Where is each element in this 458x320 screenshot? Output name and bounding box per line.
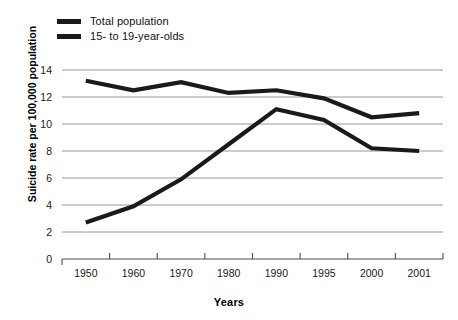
y-tick-label: 8 <box>46 145 52 157</box>
x-tick-label: 1960 <box>122 267 146 279</box>
y-tick-labels-group: 02468101214 <box>40 64 52 265</box>
x-tick-label: 1950 <box>74 267 98 279</box>
x-tick-label: 1990 <box>265 267 289 279</box>
y-tick-label: 0 <box>46 253 52 265</box>
x-axis-group <box>62 253 443 265</box>
x-tick-labels-group: 19501960197019801990199520002001 <box>74 267 431 279</box>
x-tick-label: 2001 <box>408 267 432 279</box>
y-tick-label: 12 <box>40 91 52 103</box>
series-line-teens <box>86 109 419 222</box>
x-tick-label: 1970 <box>169 267 193 279</box>
series-line-total-population <box>86 81 419 117</box>
series-lines-group <box>86 81 419 223</box>
x-tick-label: 1995 <box>312 267 336 279</box>
chart-figure: Total population 15- to 19-year-olds Sui… <box>0 0 458 320</box>
y-tick-label: 14 <box>40 64 52 76</box>
y-tick-label: 6 <box>46 172 52 184</box>
x-axis-title: Years <box>0 296 458 308</box>
y-tick-label: 4 <box>46 199 52 211</box>
y-tick-label: 2 <box>46 226 52 238</box>
y-tick-label: 10 <box>40 118 52 130</box>
footer-strip <box>0 314 458 320</box>
x-tick-label: 1980 <box>217 267 241 279</box>
x-tick-label: 2000 <box>360 267 384 279</box>
plot-area: 02468101214 1950196019701980199019952000… <box>0 0 458 320</box>
